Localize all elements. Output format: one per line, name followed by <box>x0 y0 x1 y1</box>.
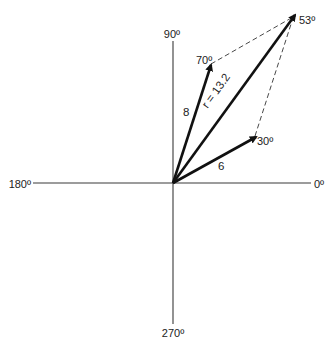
magnitude-label-6: 6 <box>218 160 224 172</box>
axis-label-90: 90º <box>164 28 180 40</box>
magnitude-label-8: 8 <box>183 106 189 118</box>
axis-label-0: 0º <box>314 178 324 190</box>
axis-label-180: 180º <box>9 178 31 190</box>
magnitude-label-resultant: r = 13.2 <box>199 71 232 110</box>
angle-label-53: 53º <box>299 14 315 26</box>
angle-label-30: 30º <box>257 135 273 147</box>
angle-label-70: 70º <box>196 54 212 66</box>
resultant-vector <box>173 15 295 183</box>
axis-label-270: 270º <box>162 327 184 339</box>
vector-diagram: 0º 90º 180º 270º 70º 30º 53º 8 6 r = 13.… <box>0 0 330 351</box>
